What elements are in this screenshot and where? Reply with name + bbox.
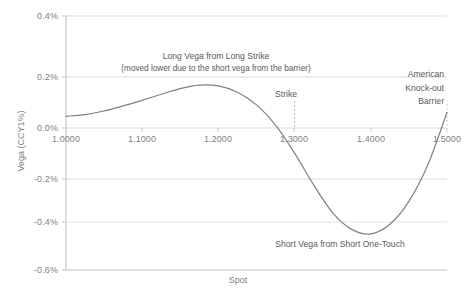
y-tick-label: 0.4% bbox=[8, 11, 58, 21]
annotation-strike: Strike bbox=[256, 88, 316, 101]
y-axis-title: Vega (CCY1%) bbox=[16, 86, 26, 196]
x-tick-label: 1.5000 bbox=[422, 134, 472, 144]
annotation-barrier-line1: American bbox=[372, 68, 444, 82]
x-axis-title: Spot bbox=[0, 275, 476, 285]
annotation-barrier: American Knock-out Barrier bbox=[372, 68, 444, 109]
annotation-short-vega: Short Vega from Short One-Touch bbox=[230, 238, 450, 251]
vega-profile-chart: 0.4% 0.2% 0.0% -0.2% -0.4% -0.6% 1.0000 … bbox=[0, 0, 476, 297]
y-tick-label: 0.2% bbox=[8, 72, 58, 82]
y-tick-label: -0.6% bbox=[8, 265, 58, 275]
annotation-barrier-line3: Barrier bbox=[372, 95, 444, 109]
annotation-long-vega: Long Vega from Long Strike (moved lower … bbox=[66, 50, 366, 75]
x-tick-marks bbox=[142, 128, 447, 132]
x-tick-label: 1.1000 bbox=[117, 134, 167, 144]
annotation-long-vega-line1: Long Vega from Long Strike bbox=[66, 50, 366, 63]
annotation-barrier-line2: Knock-out bbox=[372, 82, 444, 96]
gridlines-horizontal bbox=[66, 16, 447, 222]
x-tick-label: 1.3000 bbox=[269, 134, 319, 144]
annotation-long-vega-line2: (moved lower due to the short vega from … bbox=[66, 63, 366, 76]
x-tick-label: 1.2000 bbox=[193, 134, 243, 144]
x-tick-label: 1.0000 bbox=[41, 134, 91, 144]
x-tick-label: 1.4000 bbox=[346, 134, 396, 144]
y-tick-label: -0.4% bbox=[8, 217, 58, 227]
chart-canvas bbox=[0, 0, 476, 297]
